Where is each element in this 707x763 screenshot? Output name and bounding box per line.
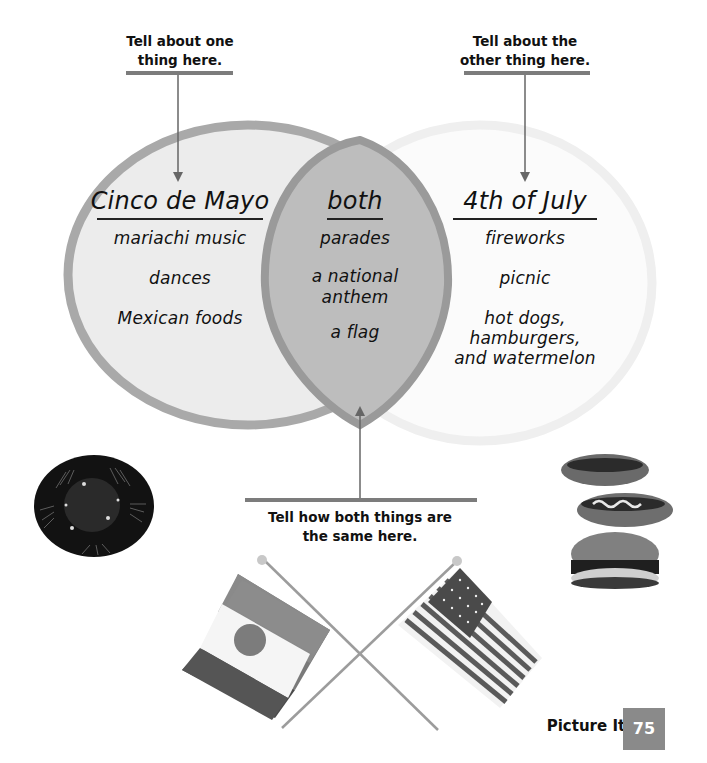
callout-left: Tell about one thing here. (110, 32, 250, 70)
venn-left-content: Cinco de Mayo mariachi music dances Mexi… (80, 186, 280, 329)
venn-left-title: Cinco de Mayo (80, 186, 280, 216)
footer-section-label: Picture It! (536, 717, 632, 735)
venn-middle-item: a flag (290, 322, 420, 343)
mexican-flag (182, 574, 330, 720)
mexican-coat-of-arms (234, 624, 266, 656)
callout-left-bar (126, 71, 233, 75)
callout-right-line1: Tell about the (455, 32, 595, 51)
us-flag (398, 568, 542, 708)
callout-right-line2: other thing here. (455, 51, 595, 70)
venn-right-item: picnic (440, 268, 610, 289)
venn-right-item: fireworks (440, 228, 610, 249)
callout-left-line2: thing here. (110, 51, 250, 70)
venn-right-title: 4th of July (440, 186, 610, 216)
venn-left-item: Mexican foods (80, 308, 280, 329)
callout-left-line1: Tell about one (110, 32, 250, 51)
callout-right-bar (464, 71, 590, 75)
venn-left-underline (97, 218, 263, 220)
page-number: 75 (623, 708, 665, 750)
food-image (555, 448, 695, 598)
callout-bottom-line1: Tell how both things are (240, 508, 480, 527)
venn-right-content: 4th of July fireworks picnic hot dogs, h… (440, 186, 610, 368)
venn-middle-content: both parades a national anthem a flag (290, 186, 420, 343)
callout-bottom-line2: the same here. (240, 527, 480, 546)
callout-bottom: Tell how both things are the same here. (240, 508, 480, 546)
venn-middle-item: a national anthem (290, 266, 420, 308)
venn-right-item: hot dogs, hamburgers, and watermelon (440, 308, 610, 368)
venn-middle-underline (327, 218, 383, 220)
sombrero-image (30, 450, 160, 560)
venn-left-item: mariachi music (80, 228, 280, 249)
venn-right-underline (453, 218, 597, 220)
flags-image (170, 550, 550, 740)
callout-right: Tell about the other thing here. (455, 32, 595, 70)
venn-middle-title: both (290, 186, 420, 216)
callout-bottom-bar (245, 498, 477, 502)
venn-left-item: dances (80, 268, 280, 289)
venn-middle-item: parades (290, 228, 420, 249)
